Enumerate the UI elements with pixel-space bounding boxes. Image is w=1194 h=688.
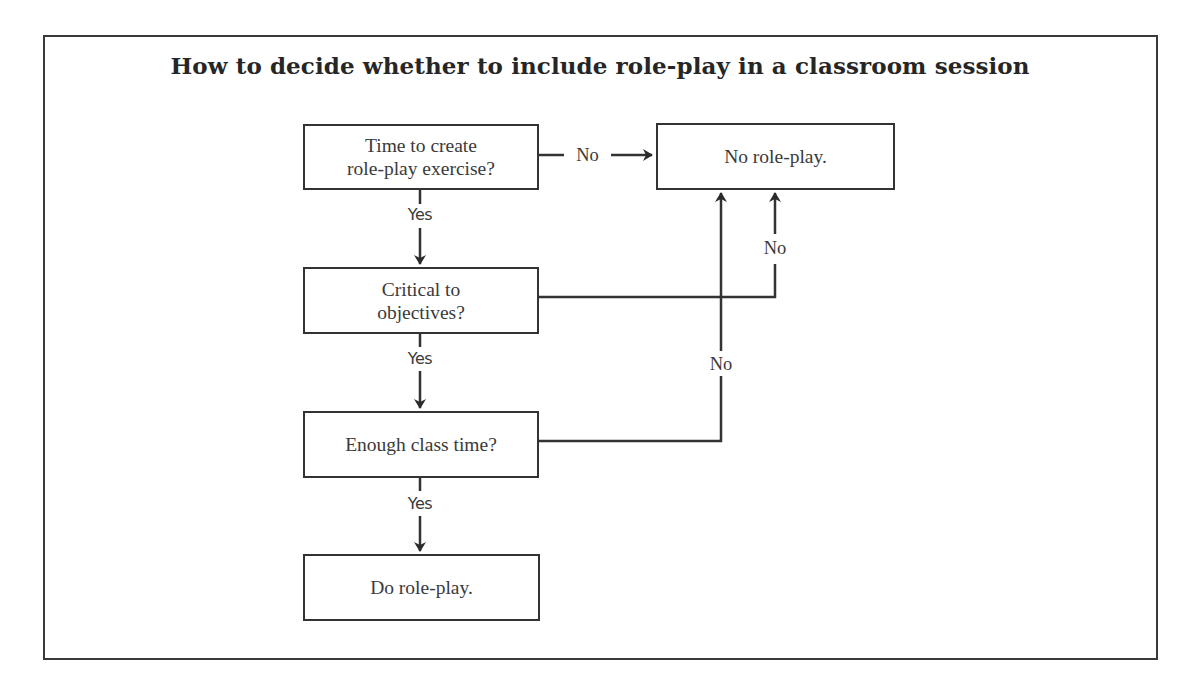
node-class-time-label: Enough class time? [345, 433, 497, 456]
edge-critical-no-line-a [538, 264, 775, 297]
node-no-roleplay: No role-play. [656, 123, 895, 190]
node-class-time: Enough class time? [303, 411, 539, 478]
node-do-roleplay: Do role-play. [303, 554, 540, 621]
node-no-roleplay-label: No role-play. [724, 145, 827, 168]
node-critical: Critical to objectives? [303, 267, 539, 334]
edge-classtime-no-line-a [538, 376, 721, 441]
edge-label-critical-no: No [755, 238, 795, 258]
edge-label-critical-yes: Yes [400, 349, 440, 369]
node-time-to-create-line-2: role-play exercise? [347, 157, 495, 180]
edge-label-time-yes: Yes [400, 205, 440, 225]
node-critical-line-2: objectives? [377, 301, 465, 324]
node-critical-line-1: Critical to [377, 278, 465, 301]
edge-label-classtime-yes: Yes [400, 494, 440, 514]
connector-lines [0, 0, 1194, 688]
edge-label-classtime-no: No [701, 354, 741, 374]
node-do-roleplay-label: Do role-play. [370, 576, 473, 599]
edge-label-time-no: No [564, 145, 611, 165]
node-time-to-create-line-1: Time to create [347, 134, 495, 157]
node-time-to-create: Time to create role-play exercise? [303, 124, 539, 190]
